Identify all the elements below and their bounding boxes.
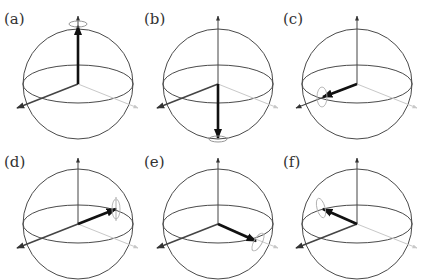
- panel-a: (a): [4, 10, 138, 139]
- x-axis: [17, 84, 78, 108]
- panel-f: (f): [283, 153, 417, 279]
- state-vector: [78, 209, 116, 224]
- panel-b: (b): [144, 10, 278, 142]
- x-axis: [157, 224, 218, 248]
- panel-d: (d): [4, 153, 138, 279]
- panel-label-a: (a): [4, 10, 25, 28]
- y-axis: [78, 224, 138, 248]
- panel-label-d: (d): [4, 153, 25, 171]
- panel-label-b: (b): [144, 10, 165, 28]
- panel-label-e: (e): [144, 153, 165, 171]
- x-axis: [17, 224, 78, 248]
- state-vector: [218, 224, 256, 241]
- bloch-sphere-figure: (a) (b) (c) (d): [0, 0, 430, 280]
- y-axis: [357, 84, 417, 108]
- panel-label-f: (f): [283, 153, 300, 171]
- panel-e: (e): [144, 153, 278, 279]
- precession-ring: [315, 197, 328, 218]
- panel-label-c: (c): [283, 10, 303, 28]
- state-vector: [323, 209, 357, 224]
- state-vector: [323, 84, 357, 97]
- y-axis: [218, 84, 278, 108]
- y-axis: [78, 84, 138, 108]
- x-axis: [296, 224, 357, 248]
- panel-c: (c): [283, 10, 417, 139]
- x-axis: [157, 84, 218, 108]
- y-axis: [357, 224, 417, 248]
